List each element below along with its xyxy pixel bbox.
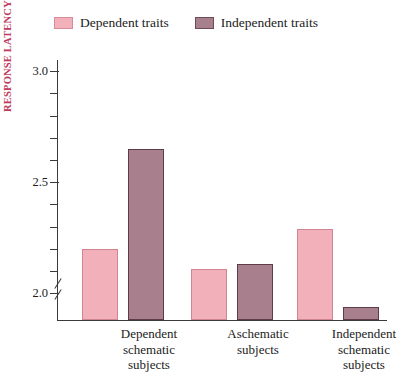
legend-label-independent-traits: Independent traits [221, 16, 318, 30]
chart-legend: Dependent traits Independent traits [54, 16, 318, 30]
x-axis-label: Independent schematic subjects [304, 326, 401, 373]
bar-dependent-traits [82, 249, 118, 320]
y-tick-minor [50, 271, 57, 272]
bar-group [297, 229, 379, 320]
plot-area: 2.02.53.0 [57, 50, 387, 321]
y-tick-minor [50, 227, 57, 228]
legend-item-dependent-traits: Dependent traits [54, 16, 169, 30]
bar-group [82, 149, 164, 320]
legend-swatch-independent-traits [195, 17, 214, 29]
y-tick-minor [50, 249, 57, 250]
x-axis-line [57, 320, 387, 321]
x-axis-label: Aschematic subjects [198, 326, 318, 357]
y-tick-minor [50, 116, 57, 117]
bar-group [191, 264, 273, 320]
x-axis-labels: Dependent schematic subjectsAschematic s… [57, 326, 387, 381]
y-tick-minor [50, 204, 57, 205]
y-tick-label: 2.5 [32, 175, 48, 190]
y-tick-label: 3.0 [32, 64, 48, 79]
bar-independent-traits [237, 264, 273, 320]
y-tick-minor [50, 138, 57, 139]
y-tick-minor [50, 160, 57, 161]
bar-series-container [58, 50, 387, 320]
y-tick-label: 2.0 [32, 286, 48, 301]
bar-dependent-traits [297, 229, 333, 320]
bar-independent-traits [343, 307, 379, 320]
bar-independent-traits [128, 149, 164, 320]
y-axis-title: RESPONSE LATENCY (SECONDS) [2, 0, 13, 112]
bar-dependent-traits [191, 269, 227, 320]
legend-item-independent-traits: Independent traits [195, 16, 318, 30]
x-axis-label: Dependent schematic subjects [89, 326, 209, 373]
legend-swatch-dependent-traits [54, 17, 73, 29]
legend-label-dependent-traits: Dependent traits [80, 16, 169, 30]
y-tick-minor [50, 93, 57, 94]
